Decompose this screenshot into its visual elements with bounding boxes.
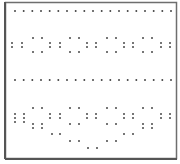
straight-row-1-dot: [162, 10, 164, 12]
wavy-band-1-dot: [41, 37, 43, 39]
wavy-band-2-dot: [32, 107, 34, 109]
wavy-band-1-dot: [32, 37, 34, 39]
wavy-band-2-dot: [14, 113, 16, 115]
wavy-band-1-dot: [123, 42, 125, 44]
wavy-band-2-dot: [59, 133, 61, 135]
wavy-band-1-dot: [78, 51, 80, 53]
wavy-band-1-dot: [21, 46, 23, 48]
wavy-band-2-dot: [160, 113, 162, 115]
wavy-band-2-dot: [41, 123, 43, 125]
wavy-band-2-dot: [69, 123, 71, 125]
straight-row-1-dot: [170, 10, 172, 12]
wavy-band-1-dot: [21, 42, 23, 44]
wavy-band-2-dot: [23, 117, 25, 119]
straight-row-2-dot: [58, 79, 60, 81]
straight-row-2-dot: [66, 79, 68, 81]
wavy-band-1-dot: [142, 37, 144, 39]
figure-frame: [6, 3, 177, 159]
wavy-band-2-dot: [160, 117, 162, 119]
wavy-band-2-dot: [106, 123, 108, 125]
straight-row-1-dot: [66, 10, 68, 12]
wavy-band-2-dot: [151, 123, 153, 125]
wavy-band-2-dot: [123, 117, 125, 119]
straight-row-1-dot: [75, 10, 77, 12]
wavy-band-2-dot: [106, 140, 108, 142]
wavy-band-2-dot: [87, 147, 89, 149]
wavy-band-2-dot: [23, 113, 25, 115]
wavy-band-2-dot: [32, 123, 34, 125]
wavy-band-2-dot: [142, 127, 144, 129]
straight-row-2-dot: [153, 79, 155, 81]
wavy-band-1-dot: [11, 42, 13, 44]
wavy-band-1-dot: [106, 51, 108, 53]
wavy-band-2-dot: [142, 123, 144, 125]
wavy-band-2-dot: [78, 123, 80, 125]
wavy-band-1-dot: [32, 51, 34, 53]
wavy-band-2-dot: [32, 127, 34, 129]
wavy-band-2-dot: [78, 140, 80, 142]
straight-row-2-dot: [75, 79, 77, 81]
wavy-band-1-dot: [106, 37, 108, 39]
straight-row-2-dot: [40, 79, 42, 81]
wavy-band-1-dot: [78, 37, 80, 39]
wavy-band-2-dot: [115, 107, 117, 109]
wavy-band-1-dot: [59, 46, 61, 48]
wavy-band-2-dot: [96, 147, 98, 149]
wavy-band-2-dot: [142, 107, 144, 109]
wavy-band-2-dot: [14, 121, 16, 123]
wavy-band-1-dot: [86, 46, 88, 48]
straight-row-1-dot: [110, 10, 112, 12]
wavy-band-2-dot: [41, 127, 43, 129]
wavy-band-1-dot: [151, 51, 153, 53]
wavy-band-2-dot: [51, 133, 53, 135]
straight-row-2-dot: [101, 79, 103, 81]
wavy-band-2-dot: [169, 113, 171, 115]
wavy-band-2-dot: [49, 113, 51, 115]
straight-row-2-dot: [23, 79, 25, 81]
wavy-band-1-dot: [95, 46, 97, 48]
wavy-band-1-dot: [169, 46, 171, 48]
straight-row-1-dot: [49, 10, 51, 12]
wavy-band-1-dot: [115, 51, 117, 53]
straight-row-1-dot: [58, 10, 60, 12]
wavy-band-2-dot: [78, 107, 80, 109]
wavy-band-2-dot: [132, 117, 134, 119]
wavy-band-2-dot: [132, 113, 134, 115]
straight-row-1-dot: [32, 10, 34, 12]
wavy-band-1-dot: [11, 46, 13, 48]
wavy-band-1-dot: [142, 51, 144, 53]
wavy-band-1-dot: [115, 37, 117, 39]
straight-row-1-dot: [40, 10, 42, 12]
wavy-band-1-dot: [169, 42, 171, 44]
straight-row-1-dot: [84, 10, 86, 12]
wavy-band-2-dot: [115, 140, 117, 142]
wavy-band-1-dot: [151, 37, 153, 39]
straight-row-1-dot: [14, 10, 16, 12]
wavy-band-1-dot: [86, 42, 88, 44]
straight-row-2-dot: [162, 79, 164, 81]
wavy-band-1-dot: [160, 46, 162, 48]
wavy-band-2-dot: [95, 113, 97, 115]
wavy-band-2-dot: [69, 140, 71, 142]
wavy-band-2-dot: [86, 113, 88, 115]
wavy-band-2-dot: [123, 113, 125, 115]
straight-row-2-dot: [92, 79, 94, 81]
wavy-band-2-dot: [86, 117, 88, 119]
wavy-band-1-dot: [69, 37, 71, 39]
wavy-band-2-dot: [169, 117, 171, 119]
straight-row-1-dot: [136, 10, 138, 12]
wavy-band-1-dot: [49, 46, 51, 48]
straight-row-2-dot: [144, 79, 146, 81]
straight-row-2-dot: [136, 79, 138, 81]
wavy-band-2-dot: [95, 117, 97, 119]
wavy-band-1-dot: [160, 42, 162, 44]
straight-row-2-dot: [127, 79, 129, 81]
wavy-band-1-dot: [132, 46, 134, 48]
wavy-band-1-dot: [95, 42, 97, 44]
straight-row-2-dot: [14, 79, 16, 81]
straight-row-2-dot: [84, 79, 86, 81]
dots-group: [11, 10, 172, 149]
wavy-band-2-dot: [115, 123, 117, 125]
wavy-band-1-dot: [132, 42, 134, 44]
wavy-band-2-dot: [69, 107, 71, 109]
